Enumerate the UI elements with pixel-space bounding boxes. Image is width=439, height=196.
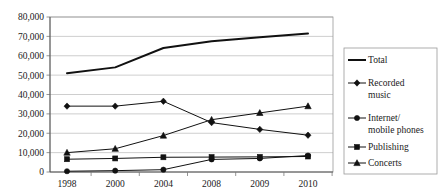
data-point-recorded-music <box>64 103 70 109</box>
y-axis-tick-label: 0 <box>39 167 44 177</box>
legend-label-internet: Internet/ <box>368 113 401 123</box>
y-axis-tick-label: 70,000 <box>18 32 44 42</box>
y-axis-tick-label: 50,000 <box>18 71 44 81</box>
data-point-publishing <box>113 156 118 161</box>
line-chart: 010,00020,00030,00040,00050,00060,00070,… <box>0 0 439 196</box>
data-point-recorded-music <box>257 126 263 132</box>
legend-marker-circle-icon <box>354 115 359 120</box>
y-axis-tick-label: 10,000 <box>18 148 44 158</box>
x-axis-group: 199820002004200820092010 <box>58 172 333 189</box>
series-line-concerts <box>67 106 308 153</box>
data-point-internet-mobile-phones <box>64 169 69 174</box>
y-axis-tick-label: 80,000 <box>18 12 44 22</box>
y-axis-tick-label: 60,000 <box>18 51 44 61</box>
series-line-total <box>67 33 308 73</box>
series-recorded-music <box>64 98 311 138</box>
legend-label-internet-line2: mobile phones <box>368 125 424 135</box>
x-axis-tick-label: 2008 <box>202 179 221 189</box>
legend-box <box>344 48 437 174</box>
data-point-publishing <box>161 155 166 160</box>
data-point-concerts <box>305 103 311 109</box>
data-point-recorded-music <box>112 103 118 109</box>
series-concerts <box>64 103 311 155</box>
series-line-recorded-music <box>67 101 308 135</box>
legend-label-concerts: Concerts <box>368 158 402 168</box>
series-line-internet-mobile-phones <box>67 156 308 172</box>
y-axis-tick-label: 40,000 <box>18 90 44 100</box>
data-point-recorded-music <box>160 98 166 104</box>
chart-canvas: 010,00020,00030,00040,00050,00060,00070,… <box>0 0 439 196</box>
x-axis-tick-label: 2000 <box>106 179 125 189</box>
x-axis-tick-label: 2009 <box>250 179 269 189</box>
series-internet-mobile-phones <box>64 153 310 174</box>
data-point-publishing <box>209 155 214 160</box>
data-point-publishing <box>306 154 311 159</box>
data-point-internet-mobile-phones <box>161 167 166 172</box>
data-point-publishing <box>65 157 70 162</box>
data-point-internet-mobile-phones <box>113 168 118 173</box>
legend-marker-square-icon <box>355 145 360 150</box>
x-axis-tick-label: 1998 <box>58 179 77 189</box>
legend-label-publishing: Publishing <box>368 142 409 152</box>
legend-label-recorded: Recorded <box>368 78 405 88</box>
data-point-publishing <box>257 154 262 159</box>
legend: TotalRecordedmusicInternet/mobile phones… <box>344 48 437 174</box>
x-axis-tick-label: 2010 <box>299 179 318 189</box>
y-axis-tick-label: 20,000 <box>18 129 44 139</box>
legend-label-total: Total <box>368 55 388 65</box>
x-axis-tick-label: 2004 <box>154 179 173 189</box>
y-axis-tick-label: 30,000 <box>18 109 44 119</box>
series-total <box>67 33 308 73</box>
legend-label-recorded-line2: music <box>368 90 391 100</box>
